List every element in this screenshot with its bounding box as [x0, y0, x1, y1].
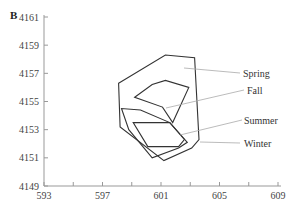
series-label-winter: Winter	[244, 138, 272, 149]
x-tick-label: 593	[37, 190, 52, 201]
y-tick-label: 4157	[19, 68, 39, 79]
axes: 4149415141534155415741594161593597601605…	[19, 12, 286, 202]
x-tick-label: 605	[212, 190, 227, 201]
series-label-summer: Summer	[244, 115, 279, 126]
series-label-fall: Fall	[247, 85, 263, 96]
seasonal-range-chart: 4149415141534155415741594161593597601605…	[0, 0, 289, 214]
series-polygons	[119, 55, 199, 161]
y-tick-label: 4153	[19, 124, 39, 135]
x-tick-label: 609	[271, 190, 286, 201]
polygon-spring	[119, 55, 199, 161]
y-tick-label: 4151	[19, 152, 39, 163]
polygon-fall	[135, 80, 189, 122]
x-tick-label: 601	[154, 190, 169, 201]
leader-line-summer	[180, 120, 242, 135]
leader-line-spring	[184, 68, 240, 73]
y-tick-label: 4159	[19, 40, 39, 51]
leader-line-fall	[166, 90, 244, 108]
series-label-spring: Spring	[243, 68, 270, 79]
polygon-winter	[122, 109, 188, 158]
y-tick-label: 4161	[19, 12, 39, 23]
y-tick-label: 4155	[19, 96, 39, 107]
leader-line-winter	[200, 142, 240, 143]
x-tick-label: 597	[95, 190, 110, 201]
